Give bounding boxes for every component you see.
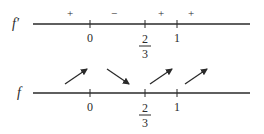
- arrow-down-icon: [107, 69, 129, 84]
- sign-interval-2: −: [111, 7, 117, 19]
- derivative-label: f′: [12, 16, 20, 31]
- tick-label-1: 1: [174, 100, 180, 114]
- tick-label-1: 1: [174, 31, 180, 45]
- function-row: f 0 2 3 1: [17, 69, 250, 130]
- derivative-row: f′ + − + + 0 2 3 1: [12, 7, 250, 61]
- frac-numerator: 2: [142, 32, 148, 46]
- arrow-up-icon: [150, 69, 172, 84]
- frac-denominator: 3: [142, 116, 148, 130]
- arrow-up-icon: [185, 69, 207, 84]
- tick-label-0: 0: [87, 31, 93, 45]
- sign-interval-3: +: [158, 7, 164, 19]
- frac-denominator: 3: [142, 47, 148, 61]
- tick-label-0: 0: [87, 100, 93, 114]
- frac-numerator: 2: [142, 101, 148, 115]
- sign-variation-diagram: f′ + − + + 0 2 3 1 f 0 2 3 1: [0, 0, 264, 134]
- arrow-up-icon: [65, 69, 87, 84]
- sign-interval-1: +: [67, 7, 73, 19]
- function-label: f: [17, 85, 23, 100]
- sign-interval-4: +: [188, 7, 194, 19]
